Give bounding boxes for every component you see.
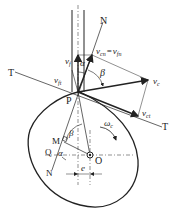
label-vc: vc — [153, 76, 160, 87]
cam-diagram: N N T T P O M Q α α β β e ωc vf vcn=vfn … — [0, 0, 180, 217]
label-M: M — [52, 136, 60, 146]
vector-vft — [72, 70, 78, 92]
label-T-right: T — [162, 121, 168, 132]
label-alpha-bottom: α — [58, 148, 63, 158]
label-Q: Q — [45, 147, 52, 157]
label-beta-top: β — [99, 67, 105, 78]
line-O-M — [64, 142, 90, 155]
vector-vc — [78, 80, 148, 92]
omega-arc — [100, 127, 116, 140]
label-vct: vct — [142, 108, 151, 119]
label-O: O — [95, 155, 102, 166]
label-omega: ωc — [104, 118, 113, 129]
label-T-left: T — [8, 67, 14, 78]
vector-vct — [78, 92, 138, 116]
label-N-bottom: N — [46, 168, 53, 178]
label-N-top: N — [100, 15, 107, 26]
label-P: P — [66, 95, 72, 106]
alpha-arc-top — [78, 72, 84, 73]
line-P-O — [78, 92, 90, 155]
label-vft: vft — [54, 75, 62, 86]
label-alpha-top: α — [80, 58, 85, 68]
label-beta-bottom: β — [68, 128, 74, 138]
label-vf: vf — [65, 56, 72, 67]
label-eccentricity: e — [81, 163, 85, 173]
label-vcn-vfn: vcn=vfn — [96, 46, 121, 57]
